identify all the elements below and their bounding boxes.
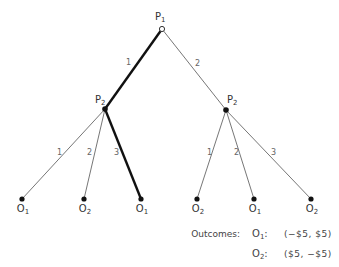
branch-label: 1 [126,59,131,67]
edge-root-1 [105,29,162,109]
leaf-node [19,196,24,201]
leaf-node [308,196,313,201]
right-p2-node [223,107,229,113]
root-node [159,26,164,31]
leaf-outcome-label: O1 [17,204,29,216]
outcome-row: O2: ($5, −$5) [176,244,332,264]
branch-label: 2 [195,60,200,68]
branch-label: 2 [234,149,239,157]
left-p2-node [102,106,108,112]
branch-label: 3 [114,149,119,157]
outcome-payoff: (−$5, $5) [284,229,332,239]
leaf-outcome-label: O2 [192,204,204,216]
leaf-outcome-label: O1 [136,204,148,216]
leaf-node [81,196,86,201]
leaf-outcome-label: O2 [306,204,318,216]
branch-label: 2 [87,149,92,157]
outcome-name: O1: [252,228,284,241]
leaf-node [194,196,199,201]
leaf-node [138,196,143,201]
branch-label: 1 [207,149,212,157]
outcome-row: Outcomes: O1: (−$5, $5) [176,224,332,244]
root-player-label: P1 [155,12,166,24]
left-player-label: P2 [95,95,106,107]
edge-left-1 [22,109,105,199]
outcome-name: O2: [252,248,284,261]
outcomes-legend: Outcomes: O1: (−$5, $5) O2: ($5, −$5) [176,224,332,264]
leaf-outcome-label: O2 [79,204,91,216]
right-player-label: P2 [227,95,238,107]
leaf-node [251,196,256,201]
edge-root-2 [162,29,226,110]
leaf-outcome-label: O1 [249,204,261,216]
outcome-payoff: ($5, −$5) [284,249,332,259]
edge-left-3 [105,109,141,199]
branch-label: 1 [57,149,62,157]
edge-right-2 [226,110,254,199]
outcomes-heading: Outcomes: [176,229,252,239]
branch-label: 3 [271,149,276,157]
